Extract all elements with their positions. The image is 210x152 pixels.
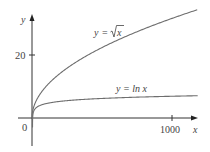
svg-text:y: y	[93, 27, 99, 38]
chart: y x 20 1000 0 y = x y = ln x	[0, 0, 210, 152]
x-axis-label: x	[192, 124, 198, 135]
sqrt-curve-label: y = x	[93, 26, 124, 39]
ln-curve-label: y = ln x	[115, 83, 147, 94]
ln-curve	[33, 96, 198, 128]
y-tick-label-20: 20	[15, 50, 26, 61]
origin-label: 0	[22, 122, 27, 133]
y-axis-arrow-icon	[30, 14, 35, 21]
x-tick-label-1000: 1000	[160, 124, 180, 135]
svg-text:=: =	[102, 27, 108, 38]
y-axis-label: y	[20, 14, 26, 25]
x-axis-arrow-icon	[191, 116, 198, 121]
svg-text:x: x	[116, 27, 122, 38]
